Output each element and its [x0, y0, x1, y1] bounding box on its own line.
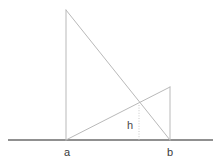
- vertex-label-b: b: [167, 146, 173, 158]
- short-triangle-hypotenuse: [66, 87, 170, 140]
- tall-triangle-hypotenuse: [66, 10, 170, 140]
- vertex-label-a: a: [64, 146, 71, 158]
- height-label-h: h: [127, 119, 133, 131]
- figure-canvas: a b h: [0, 0, 221, 165]
- geometry-figure: a b h: [0, 0, 221, 165]
